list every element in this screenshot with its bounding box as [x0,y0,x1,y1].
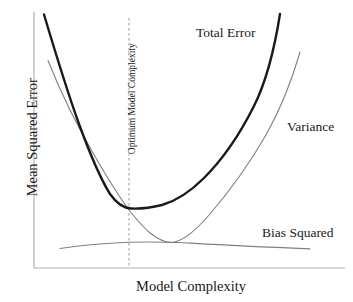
plot-area [0,0,353,302]
variance-curve [48,52,300,243]
total-error-curve [44,14,280,209]
optimum-model-complexity-label: Optimum Model Complexity [128,37,138,161]
total-error-curve-label: Total Error [196,26,255,40]
bias-variance-tradeoff-figure: Mean Squared Error Model Complexity Opti… [0,0,353,302]
variance-curve-label: Variance [287,120,334,134]
x-axis-title: Model Complexity [112,279,270,294]
y-axis-title: Mean Squared Error [25,57,40,217]
bias-squared-curve-label: Bias Squared [262,226,334,240]
bias-squared-curve [60,242,310,249]
